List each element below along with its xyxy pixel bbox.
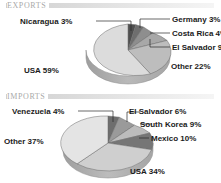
imports-label-usa: USA 34% — [130, 167, 165, 176]
exports-chart-panel: EXPORTS — [0, 0, 221, 91]
exports-label-el-salvador: El Salvador 9% — [172, 43, 221, 52]
imports-label-el-salvador: El Salvador 6% — [129, 107, 186, 116]
exports-label-nicaragua: Nicaragua 3% — [20, 17, 72, 26]
imports-label-mexico: Mexico 10% — [151, 134, 196, 143]
exports-pie-slices — [94, 24, 171, 76]
exports-label-other: Other 22% — [171, 62, 211, 71]
imports-label-other: Other 37% — [4, 137, 44, 146]
imports-label-venezuela: Venezuela 4% — [12, 107, 64, 116]
exports-label-costa-rica: Costa Rica 4% — [172, 29, 221, 38]
imports-label-south-korea: South Korea 9% — [140, 120, 201, 129]
exports-label-germany: Germany 3% — [172, 15, 220, 24]
imports-chart-panel: IMPORTS — [0, 91, 221, 183]
imports-pie-stage: Venezuela 4% El Salvador 6% South Korea … — [0, 91, 221, 183]
exports-pie-stage: Nicaragua 3% Germany 3% Costa Rica 4% El… — [0, 0, 221, 91]
exports-label-usa: USA 59% — [24, 66, 59, 75]
